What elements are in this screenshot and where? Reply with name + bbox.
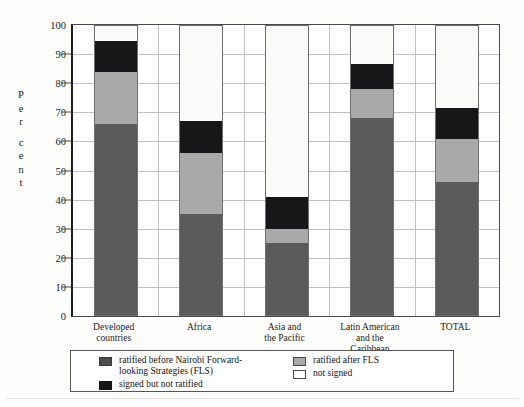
bar-stack[interactable]	[179, 25, 223, 316]
y-axis-tick-mark	[62, 83, 71, 84]
segment-ratified-before-fls[interactable]	[94, 124, 138, 316]
y-axis-tick-mark	[62, 54, 71, 55]
legend-label: signed but not ratified	[119, 379, 203, 390]
segment-not-signed[interactable]	[94, 25, 138, 41]
x-axis-category-label: Developed countries	[71, 322, 156, 344]
y-axis-tick-mark	[62, 286, 71, 287]
segment-ratified-after-fls[interactable]	[350, 89, 394, 118]
x-axis-category-label: Asia and the Pacific	[242, 322, 327, 344]
y-axis-tick-mark	[62, 141, 71, 142]
y-axis-tick-label: 10	[0, 281, 66, 292]
y-axis-tick-label: 50	[0, 165, 66, 176]
segment-ratified-before-fls[interactable]	[265, 243, 309, 316]
x-axis-category-label: Africa	[156, 322, 241, 333]
y-axis-tick-label: 20	[0, 252, 66, 263]
y-axis-tick-label: 100	[0, 20, 66, 31]
segment-signed-not-ratified[interactable]	[265, 197, 309, 229]
segment-signed-not-ratified[interactable]	[350, 64, 394, 89]
segment-ratified-before-fls[interactable]	[179, 214, 223, 316]
segment-not-signed[interactable]	[265, 25, 309, 197]
segment-not-signed[interactable]	[435, 25, 479, 108]
chart-legend: ratified before Nairobi Forward- looking…	[70, 350, 454, 392]
bar-stack[interactable]	[94, 25, 138, 316]
legend-label: ratified after FLS	[313, 355, 379, 366]
legend-item: ratified after FLS	[293, 355, 379, 366]
white-swatch-icon	[293, 370, 306, 379]
segment-not-signed[interactable]	[350, 25, 394, 64]
black-swatch-icon	[99, 381, 112, 390]
legend-label: not signed	[313, 368, 352, 379]
plot-area	[71, 24, 500, 317]
segment-ratified-before-fls[interactable]	[350, 118, 394, 316]
page-rule	[6, 398, 518, 399]
segment-signed-not-ratified[interactable]	[94, 41, 138, 72]
y-axis-tick-label: 40	[0, 194, 66, 205]
y-axis-tick-mark	[62, 228, 71, 229]
y-axis-tick-label: 90	[0, 49, 66, 60]
y-axis-tick-label: 30	[0, 223, 66, 234]
dark-gray-swatch-icon	[99, 357, 112, 366]
segment-ratified-after-fls[interactable]	[265, 229, 309, 244]
legend-item: signed but not ratified	[99, 379, 242, 390]
y-axis-tick-label: 70	[0, 107, 66, 118]
segment-ratified-before-fls[interactable]	[435, 182, 479, 316]
y-axis-tick-mark	[62, 257, 71, 258]
legend-label: ratified before Nairobi Forward- looking…	[119, 355, 242, 377]
bar-stack[interactable]	[265, 25, 309, 316]
x-axis-category-label: TOTAL	[413, 322, 498, 333]
legend-item: not signed	[293, 368, 379, 379]
legend-column-left: ratified before Nairobi Forward- looking…	[99, 355, 242, 392]
faint-cut-title	[95, 0, 435, 8]
segment-ratified-after-fls[interactable]	[94, 72, 138, 124]
figure-page: P e r c e n t 0102030405060708090100 Dev…	[0, 0, 524, 407]
y-axis-tick-mark	[62, 170, 71, 171]
segment-not-signed[interactable]	[179, 25, 223, 121]
segment-signed-not-ratified[interactable]	[179, 121, 223, 153]
bar-stack[interactable]	[350, 25, 394, 316]
light-gray-swatch-icon	[293, 357, 306, 366]
legend-item: ratified before Nairobi Forward- looking…	[99, 355, 242, 377]
y-axis-tick-label: 80	[0, 78, 66, 89]
bar-stack[interactable]	[435, 25, 479, 316]
y-axis-tick-label: 0	[0, 311, 66, 322]
y-axis-tick-mark	[62, 112, 71, 113]
segment-signed-not-ratified[interactable]	[435, 108, 479, 139]
y-axis-tick-label: 60	[0, 136, 66, 147]
segment-ratified-after-fls[interactable]	[435, 139, 479, 183]
legend-column-right: ratified after FLS not signed	[293, 355, 379, 381]
segment-ratified-after-fls[interactable]	[179, 153, 223, 214]
y-axis-tick-mark	[62, 199, 71, 200]
